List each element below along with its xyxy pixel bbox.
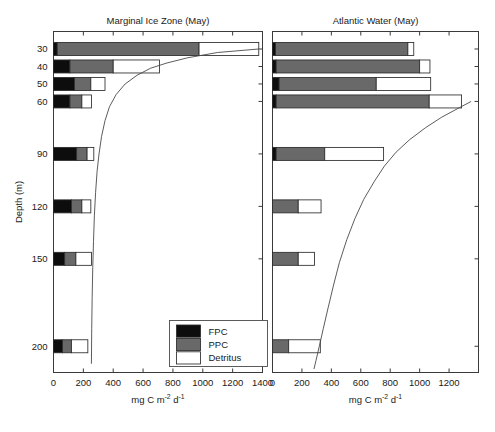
xtick-label: 400	[105, 377, 121, 388]
bar-group	[273, 147, 384, 160]
bar-segment-fpc	[273, 147, 277, 160]
bar-segment-ppc	[71, 200, 81, 213]
bar-group	[273, 252, 315, 265]
bar-segment-ppc	[276, 60, 419, 73]
bar-group	[54, 60, 160, 73]
bar-group	[273, 77, 431, 90]
xtick-label: 800	[382, 377, 398, 388]
bar-segment-detritus	[325, 147, 384, 160]
bar-segment-ppc	[273, 200, 299, 213]
panel-title: Atlantic Water (May)	[333, 15, 419, 26]
xlabel-sup2: -1	[179, 393, 185, 400]
bar-segment-ppc	[74, 77, 90, 90]
ytick-label: 60	[37, 96, 48, 107]
bar-segment-detritus	[298, 252, 314, 265]
overlay-curve	[314, 101, 471, 369]
bar-segment-fpc	[54, 340, 63, 353]
bar-segment-ppc	[276, 147, 325, 160]
xtick-label: 1200	[439, 377, 460, 388]
legend: FPCPPCDetritus	[170, 321, 268, 367]
bar-segment-detritus	[199, 42, 259, 55]
bar-segment-detritus	[113, 60, 159, 73]
legend-label-detritus: Detritus	[209, 352, 242, 363]
ytick-label: 200	[32, 341, 48, 352]
bar-group	[273, 60, 430, 73]
bar-segment-detritus	[76, 252, 92, 265]
bar-segment-ppc	[275, 42, 407, 55]
bar-segment-detritus	[408, 42, 414, 55]
bar-group	[273, 95, 462, 108]
bar-group	[54, 42, 259, 55]
ytick-label: 90	[37, 148, 48, 159]
bar-segment-ppc	[62, 340, 71, 353]
bar-segment-fpc	[273, 95, 277, 108]
bar-segment-detritus	[289, 340, 321, 353]
bar-segment-ppc	[70, 60, 113, 73]
bar-segment-ppc	[279, 77, 376, 90]
chart-svg: 0200400600800100012001400304050609012015…	[0, 0, 495, 432]
bar-segment-ppc	[273, 252, 299, 265]
legend-label-ppc: PPC	[209, 339, 229, 350]
bar-segment-detritus	[376, 77, 430, 90]
bar-segment-detritus	[91, 77, 105, 90]
panel-right: 020040060080010001200Atlantic Water (May…	[270, 15, 479, 405]
xtick-label: 1000	[409, 377, 430, 388]
bar-group	[54, 340, 88, 353]
xtick-label: 600	[353, 377, 369, 388]
x-axis-label: mg C m-2 d-1	[131, 393, 184, 405]
xlabel-pre: mg C m	[131, 394, 164, 405]
overlay-curve	[91, 49, 258, 364]
bar-group	[54, 95, 92, 108]
bar-segment-fpc	[273, 77, 280, 90]
xtick-label: 400	[323, 377, 339, 388]
bar-segment-detritus	[82, 200, 91, 213]
bar-segment-detritus	[420, 60, 430, 73]
ytick-label: 50	[37, 78, 48, 89]
bar-segment-ppc	[65, 252, 76, 265]
legend-swatch-detritus	[177, 352, 201, 364]
ytick-label: 120	[32, 201, 48, 212]
xtick-label: 1200	[222, 377, 243, 388]
xtick-label: 1000	[192, 377, 213, 388]
bar-segment-fpc	[54, 147, 77, 160]
panel-title: Marginal Ice Zone (May)	[107, 15, 210, 26]
bar-segment-detritus	[429, 95, 461, 108]
figure-container: 0200400600800100012001400304050609012015…	[0, 0, 495, 432]
bar-segment-fpc	[273, 42, 276, 55]
xtick-label: 0	[51, 377, 56, 388]
xtick-label: 800	[165, 377, 181, 388]
bar-segment-fpc	[54, 200, 72, 213]
bar-group	[54, 252, 92, 265]
xlabel-pre: mg C m	[349, 394, 382, 405]
bar-group	[54, 77, 106, 90]
xtick-label: 0	[270, 377, 275, 388]
bar-segment-fpc	[54, 95, 70, 108]
bar-group	[54, 200, 91, 213]
bar-group	[273, 200, 322, 213]
bar-segment-ppc	[276, 95, 429, 108]
bar-segment-detritus	[82, 95, 92, 108]
ytick-label: 40	[37, 61, 48, 72]
xlabel-mid: d	[171, 394, 179, 405]
bar-segment-fpc	[273, 60, 277, 73]
legend-label-fpc: FPC	[209, 326, 228, 337]
legend-swatch-ppc	[177, 338, 201, 350]
xtick-label: 200	[294, 377, 310, 388]
x-axis-label: mg C m-2 d-1	[349, 393, 402, 405]
xtick-label: 200	[75, 377, 91, 388]
bar-segment-fpc	[54, 42, 58, 55]
legend-swatch-fpc	[177, 325, 201, 337]
xtick-label: 600	[135, 377, 151, 388]
bar-segment-fpc	[54, 60, 70, 73]
bar-segment-ppc	[77, 147, 87, 160]
bar-segment-detritus	[298, 200, 321, 213]
bar-segment-fpc	[54, 252, 65, 265]
bar-group	[273, 42, 414, 55]
y-axis-label: Depth (m)	[13, 181, 24, 223]
bar-group	[54, 147, 94, 160]
bar-segment-fpc	[54, 77, 75, 90]
bar-segment-ppc	[273, 340, 289, 353]
ytick-label: 30	[37, 43, 48, 54]
bar-group	[273, 340, 321, 353]
bar-segment-ppc	[70, 95, 82, 108]
